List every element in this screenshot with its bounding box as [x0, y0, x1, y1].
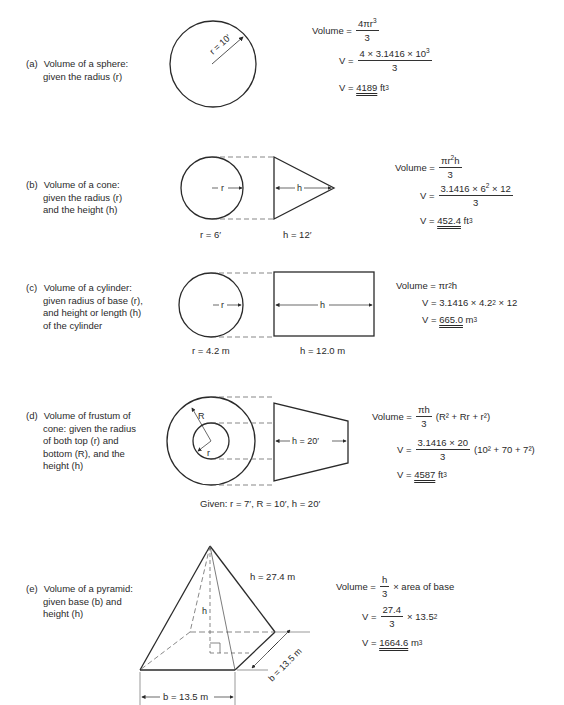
item-d-line-4: bottom (R), and the [26, 448, 136, 461]
formula-label: Volume = [396, 280, 436, 291]
cone-formula-substituted: V = 3.1416 × 62 × 123 [420, 183, 517, 208]
formula-label: V = [420, 215, 435, 226]
formula-num-b: × 12 [492, 183, 511, 194]
formula-den: 3 [421, 417, 426, 429]
cylinder-r-arrow-label: r [221, 300, 224, 310]
cylinder-formula-result: V = 665.0 m3 [422, 314, 477, 325]
item-e-tag: (e) [26, 583, 41, 596]
formula-label: V = [397, 444, 412, 455]
item-d-line-3: of both top (r) and [26, 435, 136, 448]
cone-formula-general: Volume = πr2h3 [395, 155, 466, 180]
result-unit: m [411, 637, 419, 648]
item-d-line-1: Volume of frustum of [44, 410, 131, 421]
result-value: 4587 [414, 469, 435, 480]
formula-label: V = [362, 611, 377, 622]
cylinder-radius-value: r = 4.2 m [192, 345, 230, 356]
formula-den: 3 [365, 31, 370, 43]
sphere-figure: r = 10′ [170, 21, 256, 107]
frustum-formula-substituted: V = 3.1416 × 203 (10² + 70 + 7²) [397, 437, 535, 462]
formula-tail: h [452, 280, 457, 291]
frustum-h-label: h = 20′ [292, 436, 319, 446]
result-value: 665.0 [439, 314, 463, 325]
formula-paren: (10² + 70 + 7²) [474, 444, 535, 455]
formula-den: 3 [389, 617, 394, 629]
item-b-tag: (b) [26, 179, 41, 192]
formula-num: 3.1416 × 20 [416, 437, 470, 450]
item-d-label: (d) Volume of frustum of cone: given the… [26, 410, 136, 473]
item-a-tag: (a) [26, 58, 41, 71]
sphere-formula-substituted: V = 4 × 3.1416 × 1033 [339, 48, 436, 73]
formula-label: V = [422, 297, 437, 308]
sphere-formula-general: Volume = 4πr33 [312, 18, 383, 43]
formula-label: Volume = [312, 25, 352, 36]
formula-label: Volume = [395, 162, 435, 173]
result-unit: m [466, 314, 474, 325]
item-b-line-1: Volume of a cone: [44, 179, 120, 190]
item-e-line-1: Volume of a pyramid: [44, 583, 133, 594]
cone-height-value: h = 12′ [283, 229, 312, 240]
frustum-given-values: Given: r = 7′, R = 10′, h = 20′ [200, 498, 320, 509]
formula-tail: × area of base [393, 581, 454, 592]
item-c-line-1: Volume of a cylinder: [44, 282, 132, 293]
cone-formula-result: V = 452.4 ft3 [420, 215, 473, 226]
formula-num: 4 × 3.1416 × 10 [360, 48, 427, 59]
formula-num: πr [441, 155, 451, 166]
formula-num: 27.4 [381, 604, 404, 617]
formula-label: V = [422, 314, 437, 325]
cone-h-arrow-label: h [297, 183, 302, 193]
cylinder-h-arrow-label: h [320, 300, 325, 310]
item-e-label: (e) Volume of a pyramid: given base (b) … [26, 583, 133, 621]
formula-den: 3 [382, 587, 387, 599]
pyramid-height-value: h = 27.4 m [250, 571, 295, 582]
pyramid-formula-general: Volume = h3 × area of base [336, 574, 454, 599]
sphere-radius-label: r = 10′ [208, 32, 233, 56]
pyramid-formula-substituted: V = 27.43 × 13.52 [362, 604, 437, 629]
formula-num: πh [416, 404, 432, 417]
pyramid-h-inner-label: h [202, 606, 207, 616]
item-a-label: (a) Volume of a sphere: given the radius… [26, 58, 128, 83]
frustum-formula-general: Volume = πh3 (R² + Rr + r²) [372, 404, 490, 429]
formula-den: 3 [473, 196, 478, 208]
formula-expr: πr [439, 280, 449, 291]
formula-label: V = [420, 190, 435, 201]
pyramid-figure: h h = 27.4 m b = 13.5 m b = 13.5 m [140, 546, 310, 705]
formula-b: × 12 [499, 297, 518, 308]
cone-figure: r h r = 6′ h = 12′ [181, 157, 334, 240]
item-a-line-2: given the radius (r) [26, 71, 128, 84]
formula-paren: (R² + Rr + r²) [436, 411, 490, 422]
formula-tail: × 13.5 [407, 611, 434, 622]
frustum-formula-result: V = 4587 ft3 [397, 469, 447, 480]
formula-den: 3 [440, 450, 445, 462]
formula-exp: 2 [486, 182, 490, 189]
formula-num-tail: h [454, 155, 459, 166]
frustum-R-label: R [198, 411, 205, 421]
item-d-tag: (d) [26, 410, 41, 423]
item-c-label: (c) Volume of a cylinder: given radius o… [26, 282, 143, 332]
item-c-line-4: of the cylinder [26, 320, 143, 333]
formula-a: 3.1416 × 4.2 [439, 297, 492, 308]
cone-radius-value: r = 6′ [200, 229, 221, 240]
formula-label: Volume = [372, 411, 412, 422]
formula-label: V = [397, 469, 412, 480]
formula-den: 3 [392, 61, 397, 73]
pyramid-formula-result: V = 1664.6 m3 [362, 637, 422, 648]
pyramid-base-front-label: b = 13.5 m [163, 691, 208, 702]
item-c-line-3: and height or length (h) [26, 307, 143, 320]
result-value: 452.4 [437, 215, 461, 226]
item-a-line-1: Volume of a sphere: [44, 58, 129, 69]
sphere-formula-result: V = 4189 ft3 [339, 82, 389, 93]
item-b-line-2: given the radius (r) [26, 192, 122, 205]
formula-exp: 3 [373, 17, 377, 24]
formula-label: V = [362, 637, 377, 648]
formula-exp: 3 [426, 47, 430, 54]
formula-label: V = [339, 55, 354, 66]
cylinder-height-value: h = 12.0 m [300, 345, 345, 356]
frustum-figure: R r h = 20′ Given: r = 7′, R = 10′, h = … [167, 397, 348, 509]
item-e-line-2: given base (b) and [26, 596, 133, 609]
item-d-line-2: cone: given the radius [26, 423, 136, 436]
formula-label: V = [339, 82, 354, 93]
formula-num: 4πr [358, 18, 373, 29]
result-value: 4189 [356, 82, 377, 93]
formula-num-a: 3.1416 × 6 [441, 183, 486, 194]
cylinder-formula-general: Volume = πr2h [396, 280, 457, 291]
